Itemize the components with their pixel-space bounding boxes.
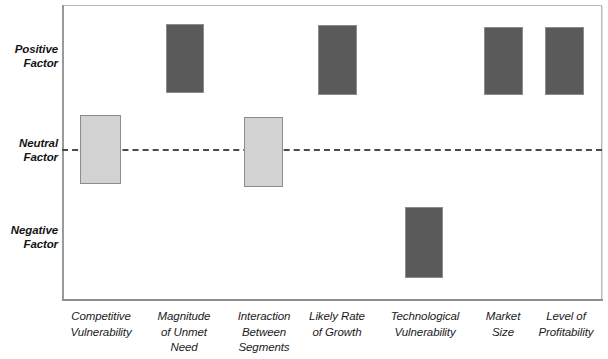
x-axis-label-competitive-vulnerability-line1: Competitive bbox=[58, 309, 144, 325]
x-axis-label-competitive-vulnerability: Competitive Vulnerability bbox=[58, 309, 144, 340]
x-axis-label-interaction-between-segments: Interaction Between Segments bbox=[222, 309, 306, 356]
x-axis-label-magnitude-of-unmet-need: Magnitude of Unmet Need bbox=[144, 309, 224, 356]
neutral-reference-line bbox=[62, 149, 602, 151]
bar-likely-rate-of-growth bbox=[318, 25, 357, 95]
bar-market-size bbox=[484, 27, 523, 95]
y-axis-spine bbox=[62, 5, 64, 301]
x-axis-label-interaction-between-segments-line3: Segments bbox=[222, 340, 306, 356]
factor-rating-bar-chart: Positive Factor Neutral Factor Negative … bbox=[0, 0, 608, 359]
bar-magnitude-of-unmet-need bbox=[166, 24, 204, 93]
x-axis-spine bbox=[62, 299, 603, 301]
x-axis-label-technological-vulnerability: Technological Vulnerability bbox=[380, 309, 470, 340]
x-axis-label-level-of-profitability: Level of Profitability bbox=[524, 309, 608, 340]
x-axis-label-magnitude-of-unmet-need-line3: Need bbox=[144, 340, 224, 356]
bar-competitive-vulnerability bbox=[80, 115, 121, 184]
y-axis-label-positive: Positive Factor bbox=[0, 42, 58, 70]
x-axis-label-technological-vulnerability-line1: Technological bbox=[380, 309, 470, 325]
x-axis-label-likely-rate-of-growth-line1: Likely Rate bbox=[296, 309, 378, 325]
y-axis-label-negative-line1: Negative bbox=[0, 223, 58, 237]
x-axis-label-magnitude-of-unmet-need-line2: of Unmet bbox=[144, 325, 224, 341]
y-axis-label-neutral-line1: Neutral bbox=[0, 136, 58, 150]
y-axis-label-neutral: Neutral Factor bbox=[0, 136, 58, 164]
x-axis-label-technological-vulnerability-line2: Vulnerability bbox=[380, 325, 470, 341]
x-axis-label-magnitude-of-unmet-need-line1: Magnitude bbox=[144, 309, 224, 325]
bar-interaction-between-segments bbox=[244, 117, 283, 187]
y-axis-label-negative: Negative Factor bbox=[0, 223, 58, 251]
x-axis-label-likely-rate-of-growth: Likely Rate of Growth bbox=[296, 309, 378, 340]
x-axis-label-level-of-profitability-line1: Level of bbox=[524, 309, 608, 325]
y-axis-label-negative-line2: Factor bbox=[0, 237, 58, 251]
x-axis-label-interaction-between-segments-line1: Interaction bbox=[222, 309, 306, 325]
x-axis-label-likely-rate-of-growth-line2: of Growth bbox=[296, 325, 378, 341]
y-axis-label-neutral-line2: Factor bbox=[0, 150, 58, 164]
y-axis-label-positive-line1: Positive bbox=[0, 42, 58, 56]
x-axis-label-level-of-profitability-line2: Profitability bbox=[524, 325, 608, 341]
y-axis-label-positive-line2: Factor bbox=[0, 56, 58, 70]
bar-level-of-profitability bbox=[545, 27, 584, 95]
bar-technological-vulnerability bbox=[405, 207, 443, 278]
x-axis-label-competitive-vulnerability-line2: Vulnerability bbox=[58, 325, 144, 341]
x-axis-label-interaction-between-segments-line2: Between bbox=[222, 325, 306, 341]
